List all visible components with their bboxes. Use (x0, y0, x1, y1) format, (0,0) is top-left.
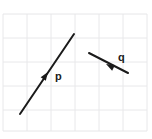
canvas-background (0, 0, 152, 139)
vector-q-label: q (118, 51, 125, 63)
vector-p-label: p (55, 70, 62, 82)
vector-diagram-canvas: p q (0, 0, 152, 139)
vector-diagram-figure: p q (0, 0, 152, 139)
